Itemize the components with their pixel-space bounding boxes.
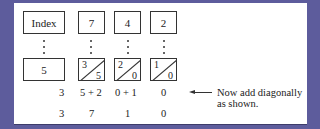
digit-label: 7 [89, 17, 95, 29]
annotation-text: Now add diagonally as shown. [217, 87, 302, 109]
tens-digit: 1 [154, 59, 159, 70]
multiplier-label: 5 [41, 64, 47, 76]
index-label: Index [31, 17, 56, 29]
units-digit: 0 [168, 70, 173, 81]
digit-box-4: 4 [114, 11, 141, 34]
digit-label: 4 [125, 17, 131, 29]
multiplier-box: 5 [23, 58, 65, 81]
annotation-line-2: as shown. [217, 98, 302, 109]
annotation-line-1: Now add diagonally [217, 87, 302, 98]
digit-box-7: 7 [78, 11, 105, 34]
lattice-cell-3: 1 0 [150, 58, 177, 81]
ellipsis-7 [90, 40, 92, 58]
lattice-cell-2: 2 0 [114, 58, 141, 81]
index-header-box: Index [23, 11, 65, 34]
result-digit-1: 3 [59, 108, 64, 119]
ellipsis-index [43, 40, 45, 58]
units-digit: 5 [96, 70, 101, 81]
lattice-cell-1: 3 5 [78, 58, 105, 81]
ellipsis-4 [127, 40, 129, 58]
tens-digit: 3 [82, 59, 87, 70]
tens-digit: 2 [118, 59, 123, 70]
result-digit-3: 1 [125, 108, 130, 119]
diagonal-sum-1: 3 [59, 87, 64, 98]
digit-label: 2 [161, 17, 167, 29]
units-digit: 0 [132, 70, 137, 81]
ellipsis-2 [163, 40, 165, 58]
diagonal-sum-2: 5 + 2 [80, 87, 102, 98]
result-digit-4: 0 [161, 108, 166, 119]
arrow-line [194, 92, 212, 93]
diagonal-sum-4: 0 [161, 87, 166, 98]
result-digit-2: 7 [89, 108, 94, 119]
diagonal-sum-3: 0 + 1 [115, 87, 137, 98]
digit-box-2: 2 [150, 11, 177, 34]
